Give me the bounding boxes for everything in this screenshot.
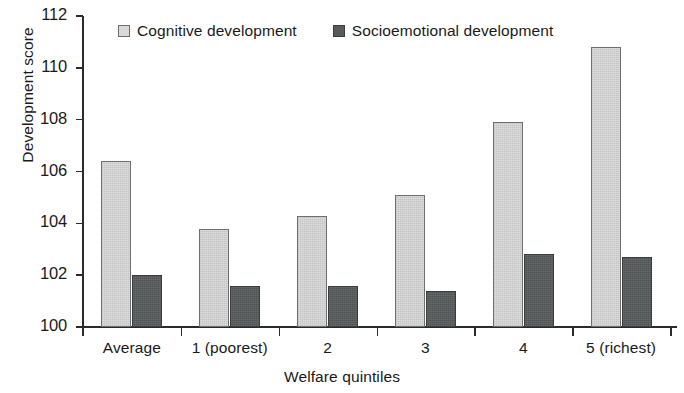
y-tick-mark bbox=[76, 171, 83, 173]
x-tick-5 bbox=[670, 327, 672, 336]
x-tick-2 bbox=[377, 327, 379, 336]
x-axis-line bbox=[82, 326, 677, 328]
x-tick-3 bbox=[474, 327, 476, 336]
bar-socioemotional-0 bbox=[132, 275, 162, 327]
x-axis-label-0: Average bbox=[83, 339, 181, 357]
x-tick-origin bbox=[82, 327, 84, 336]
bar-socioemotional-4 bbox=[524, 254, 554, 327]
x-axis-label-4: 4 bbox=[474, 339, 572, 357]
plot-area: 100102104106108110112 bbox=[83, 16, 670, 327]
bar-cognitive-3 bbox=[395, 195, 425, 327]
bar-cognitive-0 bbox=[101, 161, 131, 327]
x-axis-label-1: 1 (poorest) bbox=[181, 339, 279, 357]
x-axis-label-5: 5 (richest) bbox=[572, 339, 670, 357]
bar-cognitive-4 bbox=[493, 122, 523, 327]
bar-chart: Development score Cognitive development … bbox=[0, 0, 684, 393]
x-tick-4 bbox=[572, 327, 574, 336]
x-axis-label-2: 2 bbox=[279, 339, 377, 357]
x-tick-0 bbox=[181, 327, 183, 336]
bar-socioemotional-5 bbox=[622, 257, 652, 327]
y-tick-mark bbox=[76, 274, 83, 276]
y-axis-title: Development score bbox=[19, 0, 37, 195]
y-tick-mark bbox=[76, 15, 83, 17]
x-axis-label-3: 3 bbox=[377, 339, 475, 357]
y-tick-mark bbox=[76, 119, 83, 121]
bar-socioemotional-3 bbox=[426, 291, 456, 327]
bar-cognitive-1 bbox=[199, 229, 229, 327]
x-axis-title: Welfare quintiles bbox=[0, 368, 684, 386]
y-tick-mark bbox=[76, 67, 83, 69]
bar-cognitive-5 bbox=[591, 47, 621, 327]
bar-socioemotional-1 bbox=[230, 286, 260, 327]
bar-cognitive-2 bbox=[297, 216, 327, 327]
y-tick-mark bbox=[76, 223, 83, 225]
bar-socioemotional-2 bbox=[328, 286, 358, 327]
x-tick-1 bbox=[279, 327, 281, 336]
